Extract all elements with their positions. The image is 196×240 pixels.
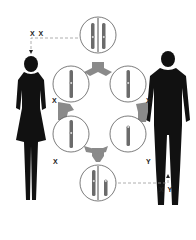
right-gamete-label: X <box>146 97 152 104</box>
male-genotype-label: X Y <box>159 186 173 193</box>
bottom-right-gamete-label: Y <box>146 158 152 165</box>
bottom-left-gamete-label: X <box>53 158 59 165</box>
female-genotype-label: X X <box>30 30 44 37</box>
left-gamete-label: X <box>52 97 58 104</box>
female-silhouette <box>16 56 46 200</box>
